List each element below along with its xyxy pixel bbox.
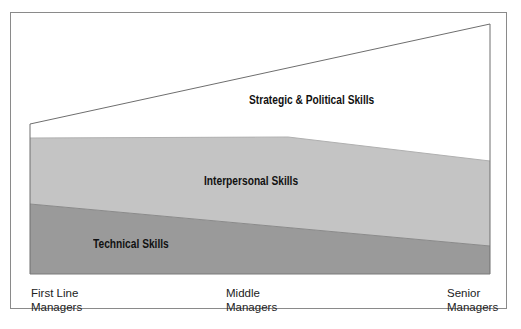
label-strategic: Strategic & Political Skills bbox=[249, 93, 374, 107]
label-interpersonal: Interpersonal Skills bbox=[204, 174, 298, 188]
skills-area-diagram bbox=[0, 0, 521, 329]
level-senior: Senior Managers bbox=[447, 286, 498, 314]
level-first-line-line2: Managers bbox=[31, 300, 82, 314]
level-senior-line1: Senior bbox=[447, 286, 498, 300]
level-middle-line1: Middle bbox=[226, 286, 277, 300]
level-first-line-line1: First Line bbox=[31, 286, 82, 300]
label-technical: Technical Skills bbox=[93, 237, 169, 251]
level-middle-line2: Managers bbox=[226, 300, 277, 314]
level-senior-line2: Managers bbox=[447, 300, 498, 314]
level-middle: Middle Managers bbox=[226, 286, 277, 314]
level-first-line: First Line Managers bbox=[31, 286, 82, 314]
